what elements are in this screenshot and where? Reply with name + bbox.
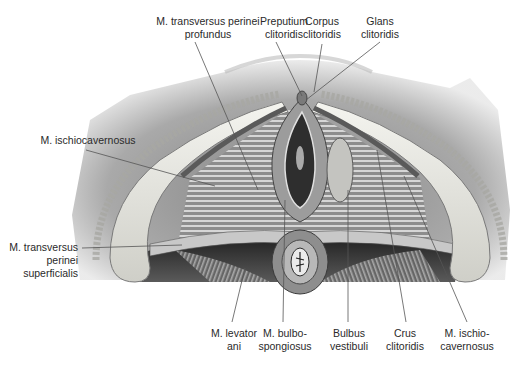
- label-ischiocavernosus-left: M. ischiocavernosus: [30, 134, 146, 147]
- label-line: perinei: [0, 254, 78, 267]
- clitoris-apex: [297, 91, 307, 105]
- label-line: Crus: [378, 327, 432, 340]
- bulbus-vestibuli-shape: [327, 138, 353, 202]
- label-line: clitoridis: [354, 28, 406, 41]
- label-ischiocavernosus-right: M. ischio- cavernosus: [436, 327, 498, 353]
- label-line: profundus: [147, 28, 269, 41]
- label-line: Corpus: [296, 15, 348, 28]
- label-line: M. bulbo-: [254, 327, 316, 340]
- anatomical-figure: M. transversus perinei profundus Preputi…: [0, 0, 532, 366]
- label-line: superficialis: [0, 267, 78, 280]
- label-line: cavernosus: [436, 340, 498, 353]
- label-line: M. transversus perinei: [147, 15, 269, 28]
- label-bulbospongiosus: M. bulbo- spongiosus: [254, 327, 316, 353]
- label-transversus-perinei-profundus: M. transversus perinei profundus: [147, 15, 269, 41]
- label-line: Glans: [354, 15, 406, 28]
- label-line: clitoridis: [378, 340, 432, 353]
- anal-sphincter: [272, 230, 328, 294]
- label-line: M. transversus: [0, 241, 78, 254]
- label-line: spongiosus: [254, 340, 316, 353]
- label-corpus-clitoridis: Corpus clitoridis: [296, 15, 348, 41]
- label-line: clitoridis: [296, 28, 348, 41]
- label-bulbus-vestibuli: Bulbus vestibuli: [322, 327, 376, 353]
- label-crus-clitoridis: Crus clitoridis: [378, 327, 432, 353]
- label-line: Bulbus: [322, 327, 376, 340]
- label-line: M. ischio-: [436, 327, 498, 340]
- label-line: M. ischiocavernosus: [30, 134, 146, 147]
- label-glans-clitoridis: Glans clitoridis: [354, 15, 406, 41]
- label-line: vestibuli: [322, 340, 376, 353]
- perineum-illustration: [0, 0, 532, 366]
- label-transversus-perinei-superficialis: M. transversus perinei superficialis: [0, 241, 78, 280]
